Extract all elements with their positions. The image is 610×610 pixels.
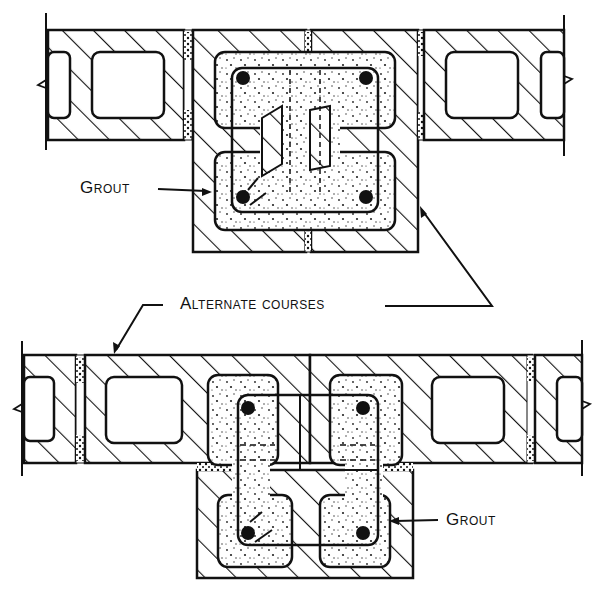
rebar-icon [359, 71, 373, 85]
grout-label-top: Grout [80, 178, 130, 198]
grout-label-bottom: Grout [446, 510, 496, 530]
top-course [38, 13, 572, 252]
rebar-icon [359, 190, 373, 204]
rebar-icon [241, 401, 255, 415]
rebar-icon [241, 526, 255, 540]
bottom-course [14, 340, 590, 578]
rebar-icon [356, 401, 370, 415]
rebar-icon [236, 190, 250, 204]
rebar-icon [236, 71, 250, 85]
rebar-icon [356, 526, 370, 540]
alternate-courses-label: Alternate courses [180, 294, 325, 314]
